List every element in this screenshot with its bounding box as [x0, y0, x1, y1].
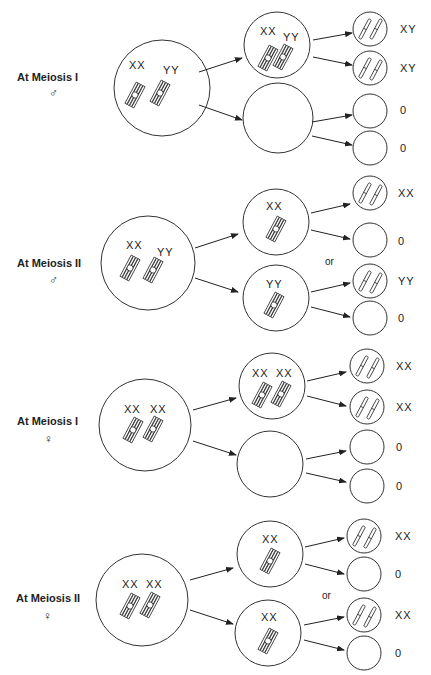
chromosome-label: XX	[252, 367, 269, 379]
daughter-cell	[237, 521, 303, 587]
chromosome-icon	[364, 528, 377, 549]
gamete-label: YY	[398, 275, 415, 287]
chromosome-icon	[367, 399, 380, 420]
gamete-label: 0	[395, 647, 402, 659]
chromosome-label: XX	[150, 403, 167, 415]
daughter-cell	[235, 600, 301, 666]
female-symbol-icon: ♀	[43, 609, 52, 623]
chromosome-icon	[120, 593, 140, 619]
chromosome-icon	[252, 382, 272, 408]
gamete-label: 0	[396, 480, 403, 492]
daughter-cell	[243, 189, 309, 255]
chromosome-icon	[120, 255, 140, 281]
daughter-cell	[243, 265, 309, 331]
male-symbol-icon: ♂	[49, 273, 58, 287]
parent-cell	[101, 216, 195, 310]
chromosome-icon	[143, 257, 163, 283]
or-label: or	[322, 590, 331, 601]
panel-title: At Meiosis II	[17, 257, 81, 269]
gamete-cell	[353, 264, 387, 298]
gamete-cell	[353, 51, 387, 85]
gamete-label: XX	[396, 360, 413, 372]
chromosome-label: XX	[146, 578, 163, 590]
chromosome-icon	[150, 80, 170, 106]
chromosome-icon	[140, 592, 160, 618]
gamete-label: 0	[400, 142, 407, 154]
parent-cell	[99, 379, 191, 471]
gamete-label: XX	[395, 530, 412, 542]
male-symbol-icon: ♂	[49, 86, 58, 100]
chromosome-icon	[258, 628, 278, 654]
gamete-cell	[353, 176, 387, 210]
chromosome-icon	[359, 58, 372, 79]
chromosome-label: XX	[126, 239, 143, 251]
gamete-label: XX	[396, 401, 413, 413]
daughter-cell	[244, 12, 310, 78]
gamete-label: XY	[400, 62, 417, 74]
chromosome-label: XX	[129, 59, 146, 71]
gamete-label: 0	[396, 441, 403, 453]
parent-cell	[96, 554, 188, 646]
nondisjunction-diagram	[0, 0, 431, 675]
chromosome-label: YY	[163, 64, 180, 76]
chromosome-icon	[370, 60, 383, 81]
chromosome-icon	[364, 607, 377, 628]
gamete-cell	[353, 131, 387, 165]
chromosome-icon	[370, 19, 383, 40]
chromosome-icon	[356, 397, 369, 418]
chromosome-icon	[123, 417, 143, 443]
gamete-cell	[353, 301, 387, 335]
panel-meiosis1-male	[114, 12, 387, 165]
chromosome-icon	[367, 358, 380, 379]
female-symbol-icon: ♀	[44, 432, 53, 446]
chromosome-label: YY	[266, 278, 283, 290]
chromosome-icon	[143, 416, 163, 442]
chromosome-icon	[359, 271, 372, 292]
chromosome-label: XX	[260, 25, 277, 37]
chromosome-icon	[370, 273, 383, 294]
chromosome-label: XX	[261, 611, 278, 623]
gamete-cell	[347, 519, 381, 553]
gamete-cell	[347, 598, 381, 632]
chromosome-label: YY	[157, 246, 174, 258]
gamete-label: 0	[398, 312, 405, 324]
chromosome-label: XX	[122, 578, 139, 590]
gamete-label: 0	[400, 104, 407, 116]
daughter-cell	[237, 431, 303, 497]
chromosome-icon	[271, 381, 291, 407]
chromosome-icon	[264, 292, 284, 318]
gamete-cell	[347, 636, 381, 670]
chromosome-icon	[260, 548, 280, 574]
gamete-cell	[350, 390, 384, 424]
panel-meiosis2-male	[101, 176, 387, 335]
chromosome-label: XX	[124, 403, 141, 415]
chromosome-label: XX	[262, 533, 279, 545]
or-label: or	[325, 256, 334, 267]
daughter-cell	[243, 83, 313, 153]
chromosome-icon	[353, 605, 366, 626]
panel-title: At Meiosis I	[17, 71, 78, 83]
chromosome-icon	[359, 19, 372, 40]
chromosome-icon	[353, 526, 366, 547]
gamete-cell	[353, 94, 387, 128]
gamete-label: 0	[398, 235, 405, 247]
daughter-cell	[239, 353, 305, 419]
chromosome-icon	[273, 44, 293, 70]
gamete-cell	[350, 349, 384, 383]
panel-meiosis2-female	[96, 519, 381, 670]
gamete-cell	[353, 12, 387, 46]
gamete-label: 0	[395, 568, 402, 580]
gamete-cell	[347, 557, 381, 591]
chromosome-icon	[359, 183, 372, 204]
panel-title: At Meiosis I	[17, 415, 78, 427]
gamete-cell	[350, 430, 384, 464]
gamete-cell	[350, 469, 384, 503]
gamete-label: XX	[395, 609, 412, 621]
chromosome-label: XX	[276, 367, 293, 379]
chromosome-icon	[370, 185, 383, 206]
chromosome-label: XX	[266, 200, 283, 212]
gamete-cell	[353, 223, 387, 257]
chromosome-icon	[125, 82, 145, 108]
chromosome-icon	[258, 45, 278, 71]
panel-meiosis1-female	[99, 349, 384, 503]
